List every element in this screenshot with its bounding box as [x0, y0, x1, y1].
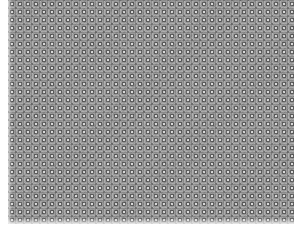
left-white-margin — [4, 0, 12, 224]
texture-canvas: Gray halftone ring-pattern texture — [0, 0, 294, 232]
halftone-ring-texture — [8, 0, 294, 224]
bottom-white-margin — [8, 218, 294, 226]
